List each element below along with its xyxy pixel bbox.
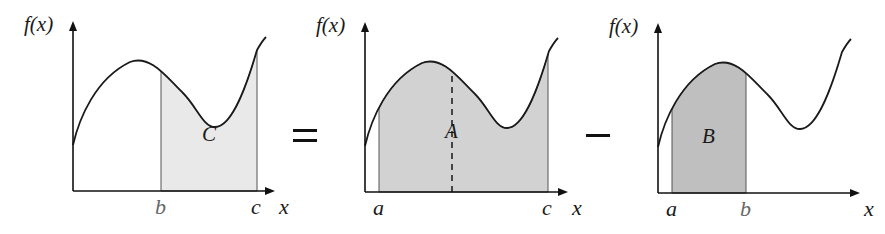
x-axis-arrow-icon [850,189,860,197]
panel-area-b: f(x)xabB [0,0,885,234]
y-axis-label: f(x) [609,14,638,38]
x-axis-label: x [863,196,874,221]
panel-graph: f(x)xabB [609,14,874,221]
y-axis-arrow-icon [654,23,662,33]
area-decomposition-diagram: f(x)xbcC = f(x)xacA − f(x)xabB [0,0,885,234]
region-label: B [702,124,715,148]
bound-label-a: a [666,196,677,221]
bound-label-b: b [740,196,751,221]
